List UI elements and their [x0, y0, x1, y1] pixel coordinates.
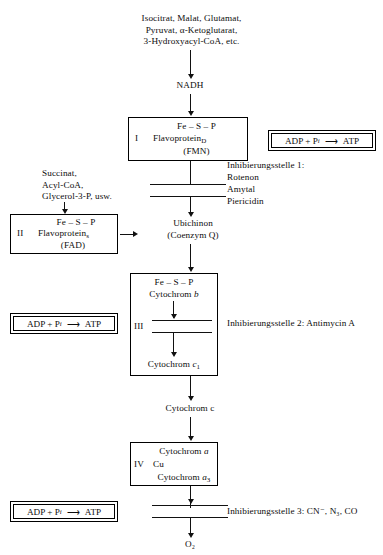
complex-1-line2-subscript: D: [201, 137, 206, 145]
inhibition-site-1-heading: Inhibierungsstelle 1:: [227, 160, 304, 172]
inhibition-bar-2-lower: [152, 332, 212, 333]
atp-box-3[interactable]: ADP + Pi⟶ATP: [10, 501, 118, 522]
complex-3-line3-subscript: 1: [197, 363, 201, 371]
arrowhead-inhibition3-to-oxygen: [188, 533, 194, 538]
atp-box-1-adp: ADP + P: [285, 136, 318, 146]
atp-box-1-inner: ADP + Pi⟶ATP: [271, 133, 373, 148]
inhibition-bar-1-lower: [150, 196, 226, 197]
inhibition-site-3-heading: Inhibierungsstelle 3: CN⁻, N₃, CO: [227, 506, 357, 518]
connector-inhibition2-to-cytc1: [173, 332, 174, 354]
complex-3-line2-prefix: Cytochrom: [149, 289, 194, 299]
complex-4-line1: Cytochrom a: [149, 446, 219, 458]
complex-4-line3: Cytochrom a3: [149, 472, 219, 486]
connector-cytc-to-complex4: [190, 417, 191, 438]
atp-box-1-atp: ATP: [343, 136, 359, 146]
arrowhead-complex4-to-inhibition3: [188, 499, 194, 504]
atp-box-3-adp: ADP + P: [27, 507, 60, 517]
inhibition-bar-3-upper: [152, 505, 228, 506]
connector-complex1-to-inhibition1: [190, 161, 191, 185]
ubiquinone-label-line1: Ubichinon: [145, 218, 241, 230]
complex-2-box[interactable]: Fe – S – P II Flavoproteins (FAD): [10, 214, 118, 254]
complex-4-line1-italic: a: [204, 446, 209, 456]
atp-box-1[interactable]: ADP + Pi⟶ATP: [268, 130, 376, 151]
complex-2-line3: (FAD): [33, 240, 113, 252]
inhibition-bar-2-upper: [152, 320, 212, 321]
atp-box-2-inner: ADP + Pi⟶ATP: [13, 316, 115, 331]
complex-3-roman: III: [134, 321, 143, 333]
complex-1-roman: I: [135, 133, 138, 145]
cytochrome-c-text: Cytochrom c: [166, 403, 215, 413]
complex-1-line1: Fe – S – P: [144, 121, 249, 133]
connector-substrates-to-nadh: [190, 50, 191, 76]
atp-box-2-atp: ATP: [85, 319, 101, 329]
complex-1-line2-text: Flavoprotein: [153, 133, 201, 143]
complex-4-box[interactable]: Cytochrom a IV Cu Cytochrom a3: [130, 442, 218, 486]
atp-box-3-atp: ATP: [85, 507, 101, 517]
complex-4-roman: IV: [134, 459, 144, 471]
complex-3-line2: Cytochrom b: [130, 289, 218, 301]
inhibition-bar-1-upper: [150, 184, 226, 185]
complex-1-box[interactable]: Fe – S – P I FlavoproteinD (FMN): [128, 117, 248, 161]
top-substrates-label: Isocitrat, Malat, Glutamat, Pyruvat, α-K…: [0, 13, 383, 48]
atp-box-3-arrow: ⟶: [62, 506, 85, 517]
arrowhead-cytc-to-complex4: [188, 436, 194, 441]
complex-4-line3-subscript: 3: [207, 476, 211, 484]
arrowhead-cytb-to-inhibition2: [171, 314, 177, 319]
complex-4-line2: Cu: [153, 459, 164, 471]
arrowhead-complex2-to-ubiquinone: [133, 231, 138, 237]
complex-2-line1: Fe – S – P: [33, 217, 119, 229]
left-substrates-label: Succinat, Acyl-CoA, Glycerol-3-P, usw.: [42, 168, 112, 203]
connector-ubiquinone-to-complex3: [190, 244, 191, 269]
cytochrome-c-label: Cytochrom c: [140, 403, 240, 415]
arrowhead-substrates-to-nadh: [188, 74, 194, 79]
connector-complex2-to-ubiquinone: [120, 234, 134, 235]
complex-3-line3: Cytochrom c1: [130, 359, 218, 373]
complex-3-line3-prefix: Cytochrom: [148, 359, 193, 369]
inhibition-site-2-heading: Inhibierungsstelle 2: Antimycin A: [227, 318, 355, 330]
atp-box-3-inner: ADP + Pi⟶ATP: [13, 504, 115, 519]
oxygen-label: O₂: [150, 539, 230, 551]
inhibition-site-1-item-2: Piericidin: [227, 196, 264, 208]
atp-box-1-arrow: ⟶: [320, 135, 343, 146]
atp-box-2[interactable]: ADP + Pi⟶ATP: [10, 313, 118, 334]
complex-1-line2: FlavoproteinD: [153, 133, 206, 147]
complex-4-line1-prefix: Cytochrom: [159, 446, 204, 456]
complex-2-line2-subscript: s: [86, 232, 89, 240]
complex-3-line1: Fe – S – P: [130, 277, 218, 289]
atp-box-2-arrow: ⟶: [62, 318, 85, 329]
inhibition-site-1-item-1: Amytal: [227, 184, 255, 196]
arrowhead-to-ubiquinone: [188, 212, 194, 217]
inhibition-site-1-item-0: Rotenon: [227, 172, 259, 184]
arrowhead-ubiquinone-to-complex3: [188, 267, 194, 272]
connector-complex3-to-cytc: [190, 376, 191, 398]
nadh-label: NADH: [140, 80, 240, 92]
complex-2-line2-text: Flavoprotein: [38, 228, 86, 238]
arrowhead-complex3-to-cytc: [188, 396, 194, 401]
atp-box-2-adp: ADP + P: [27, 319, 60, 329]
ubiquinone-label-line2: (Coenzym Q): [145, 230, 241, 242]
complex-1-line3: (FMN): [144, 146, 249, 158]
arrowhead-inhibition2-to-cytc1: [171, 352, 177, 357]
complex-4-line3-prefix: Cytochrom: [158, 472, 203, 482]
arrowhead-nadh-to-complex1: [188, 111, 194, 116]
complex-2-roman: II: [17, 228, 23, 240]
complex-3-line2-italic: b: [194, 289, 199, 299]
